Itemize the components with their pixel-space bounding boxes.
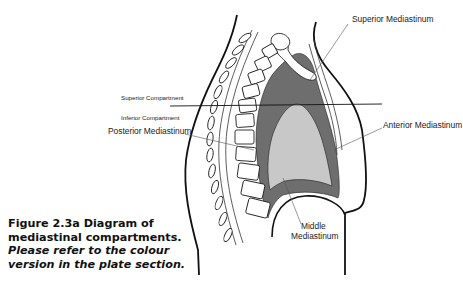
figure-title: Figure 2.3a Diagram of mediastinal compa… xyxy=(8,217,208,244)
label-posterior-mediastinum: Posterior Mediastinum xyxy=(108,126,191,136)
label-middle-mediastinum-line1: Middle xyxy=(301,221,326,231)
label-middle-mediastinum-line2: Mediastinum xyxy=(291,231,339,241)
label-inferior-compartment: Inferior Compartment xyxy=(121,114,180,121)
label-superior-mediastinum: Superior Mediastinum xyxy=(352,14,433,24)
leader-anterior-mediastinum xyxy=(334,128,382,150)
label-superior-compartment: Superior Compartment xyxy=(121,94,184,101)
figure-caption: Figure 2.3a Diagram of mediastinal compa… xyxy=(8,217,208,271)
label-anterior-mediastinum: Anterior Mediastinum xyxy=(383,120,462,130)
figure-note: Please refer to the colour version in th… xyxy=(8,244,208,271)
